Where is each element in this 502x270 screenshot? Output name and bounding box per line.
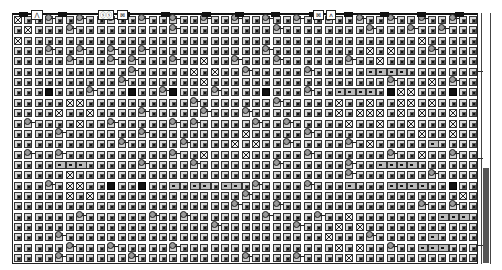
grid-tile[interactable] [356,57,364,65]
grid-tile[interactable] [325,161,333,169]
grid-tile[interactable] [345,151,353,159]
grid-tile[interactable] [35,171,43,179]
grid-tile[interactable] [366,223,374,231]
grid-tile[interactable] [128,140,136,148]
grid-tile[interactable] [128,182,136,190]
grid-tile[interactable] [35,140,43,148]
grid-tile[interactable] [262,99,270,107]
grid-tile[interactable] [107,109,115,117]
grid-tile[interactable] [262,78,270,86]
creature-sprite[interactable] [438,26,446,34]
grid-tile[interactable] [449,161,457,169]
grid-tile[interactable] [304,120,312,128]
grid-tile[interactable] [262,254,270,262]
grid-tile[interactable] [252,78,260,86]
grid-tile[interactable] [335,57,343,65]
creature-sprite[interactable] [428,47,436,55]
grid-tile[interactable] [159,16,167,24]
bar-segment[interactable] [335,88,346,96]
grid-tile[interactable] [35,192,43,200]
bar-segment[interactable] [376,68,387,76]
bar-segment[interactable] [387,68,398,76]
link-cluster-tile[interactable] [190,68,198,76]
grid-tile[interactable] [428,88,436,96]
bar-segment[interactable] [356,88,367,96]
grid-tile[interactable] [304,202,312,210]
grid-tile[interactable] [407,171,415,179]
grid-tile[interactable] [325,182,333,190]
grid-tile[interactable] [449,223,457,231]
grid-tile[interactable] [24,254,32,262]
grid-tile[interactable] [138,233,146,241]
grid-tile[interactable] [200,68,208,76]
grid-tile[interactable] [190,213,198,221]
creature-sprite[interactable] [387,151,395,159]
grid-tile[interactable] [262,223,270,231]
grid-tile[interactable] [376,130,384,138]
grid-tile[interactable] [169,192,177,200]
grid-tile[interactable] [449,244,457,252]
grid-tile[interactable] [190,223,198,231]
grid-tile[interactable] [97,26,105,34]
grid-tile[interactable] [387,109,395,117]
grid-tile[interactable] [149,151,157,159]
grid-tile[interactable] [387,233,395,241]
grid-tile[interactable] [138,213,146,221]
link-cluster-tile[interactable] [356,223,364,231]
link-cluster-tile[interactable] [345,213,353,221]
grid-tile[interactable] [252,254,260,262]
grid-tile[interactable] [86,120,94,128]
top-border-icon[interactable]: ⋀ [31,10,43,20]
grid-tile[interactable] [149,47,157,55]
grid-tile[interactable] [252,213,260,221]
grid-tile[interactable] [418,78,426,86]
grid-tile[interactable] [262,182,270,190]
grid-tile[interactable] [180,16,188,24]
grid-tile[interactable] [418,223,426,231]
grid-tile[interactable] [469,99,477,107]
grid-tile[interactable] [169,47,177,55]
link-cluster-tile[interactable] [242,151,250,159]
grid-tile[interactable] [200,88,208,96]
grid-tile[interactable] [76,57,84,65]
creature-sprite[interactable] [387,78,395,86]
grid-tile[interactable] [118,120,126,128]
grid-tile[interactable] [97,223,105,231]
link-cluster-tile[interactable] [66,171,74,179]
grid-tile[interactable] [407,140,415,148]
grid-tile[interactable] [376,88,384,96]
creature-sprite[interactable] [262,47,270,55]
grid-tile[interactable] [169,233,177,241]
grid-tile[interactable] [335,78,343,86]
grid-tile[interactable] [35,78,43,86]
grid-tile[interactable] [407,233,415,241]
grid-tile[interactable] [128,37,136,45]
creature-sprite[interactable] [118,140,126,148]
grid-tile[interactable] [438,57,446,65]
grid-tile[interactable] [469,140,477,148]
grid-tile[interactable] [200,140,208,148]
creature-sprite[interactable] [304,151,312,159]
grid-tile[interactable] [138,202,146,210]
grid-tile[interactable] [149,78,157,86]
grid-tile[interactable] [76,151,84,159]
grid-tile[interactable] [283,254,291,262]
grid-tile[interactable] [221,37,229,45]
grid-tile[interactable] [366,16,374,24]
grid-tile[interactable] [283,161,291,169]
bar-segment[interactable] [449,213,460,221]
grid-tile[interactable] [66,233,74,241]
grid-tile[interactable] [190,109,198,117]
grid-tile[interactable] [55,68,63,76]
grid-tile[interactable] [180,37,188,45]
grid-tile[interactable] [304,26,312,34]
grid-tile[interactable] [14,99,22,107]
grid-tile[interactable] [128,192,136,200]
grid-tile[interactable] [149,202,157,210]
link-cluster-tile[interactable] [418,130,426,138]
bar-segment[interactable] [345,88,356,96]
grid-tile[interactable] [190,151,198,159]
link-cluster-tile[interactable] [76,182,84,190]
link-cluster-tile[interactable] [356,244,364,252]
grid-tile[interactable] [76,244,84,252]
